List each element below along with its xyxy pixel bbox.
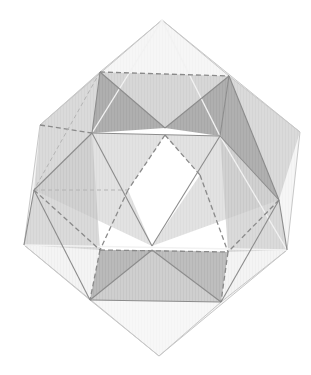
polyhedron-svg xyxy=(0,0,311,375)
polyhedron-figure xyxy=(0,0,311,375)
